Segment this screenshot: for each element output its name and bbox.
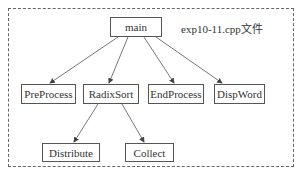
node-collect: Collect: [125, 143, 174, 162]
node-main: main: [110, 17, 162, 37]
node-preprocess: PreProcess: [21, 84, 76, 104]
edge-main-endprocess: [144, 37, 174, 83]
node-dispword: DispWord: [214, 84, 265, 104]
edge-radixsort-collect: [122, 104, 144, 142]
node-distribute: Distribute: [42, 143, 100, 162]
file-caption: exp10-11.cpp文件: [181, 20, 263, 36]
node-endprocess: EndProcess: [148, 84, 204, 104]
node-radixsort: RadixSort: [83, 84, 139, 104]
edge-radixsort-distribute: [74, 104, 98, 142]
edge-main-radixsort: [109, 37, 128, 83]
edge-main-dispword: [156, 37, 222, 83]
edge-main-preprocess: [50, 37, 118, 83]
